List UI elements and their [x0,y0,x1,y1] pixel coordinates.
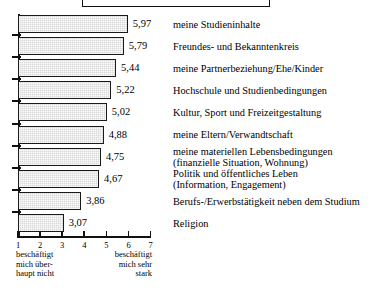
x-axis-tick [150,231,152,238]
bar-chart: 5,975,795,445,225,024,884,754,673,863,07… [0,0,371,290]
x-axis-tick [128,231,130,238]
bar [18,214,64,232]
x-axis-tick [17,231,19,238]
category-label: meine Partnerbeziehung/Ehe/Kinder [173,63,371,75]
x-axis-tick [106,231,108,238]
category-label: Politik und öffentliches Leben (Informat… [173,168,371,191]
bar [18,59,116,77]
bar-value-label: 5,02 [112,104,130,120]
category-label: Berufs-/Erwerbstätigkeit neben dem Studi… [173,196,371,208]
bar-value-label: 4,67 [104,171,122,187]
x-axis-tick-label: 5 [99,240,113,250]
bar-value-label: 5,44 [121,60,139,76]
bar [18,192,81,210]
y-axis-tick [12,56,21,58]
bar [18,170,99,188]
y-axis-tick [12,211,21,213]
y-axis-tick [12,123,21,125]
scale-anchor-low: beschäftigt mich über- haupt nicht [16,250,54,279]
category-label: meine materiellen Lebensbedingungen (fin… [173,146,371,169]
category-label: meine Eltern/Verwandtschaft [173,129,371,141]
y-axis-tick [12,189,21,191]
bar-value-label: 5,22 [116,82,134,98]
title-box-cropped [82,0,270,7]
x-axis-tick-label: 4 [77,240,91,250]
bar-value-label: 4,75 [106,149,124,165]
y-axis-tick [12,100,21,102]
bar [18,81,111,99]
y-axis-tick [12,78,21,80]
category-label: Religion [173,218,371,230]
y-axis-tick [12,34,21,36]
x-axis-tick [83,231,85,238]
bar [18,148,101,166]
bar [18,126,104,144]
x-axis-tick [61,231,63,238]
category-label: Freundes- und Bekanntenkreis [173,41,371,53]
category-label: Kultur, Sport und Freizeitgestaltung [173,107,371,119]
scale-anchor-high: beschäftigt mich sehr stark [100,250,152,279]
x-axis-tick [39,231,41,238]
bar [18,103,107,121]
x-axis-tick-label: 3 [55,240,69,250]
bar-value-label: 5,97 [133,16,151,32]
bar [18,15,128,33]
bar-value-label: 3,07 [69,215,87,231]
category-label: Hochschule und Studienbedingungen [173,85,371,97]
category-label: meine Studieninhalte [173,19,371,31]
bar-value-label: 3,86 [86,193,104,209]
y-axis-tick [12,167,21,169]
bar-value-label: 5,79 [129,38,147,54]
bar [18,37,124,55]
bar-value-label: 4,88 [109,127,127,143]
y-axis-tick [12,145,21,147]
